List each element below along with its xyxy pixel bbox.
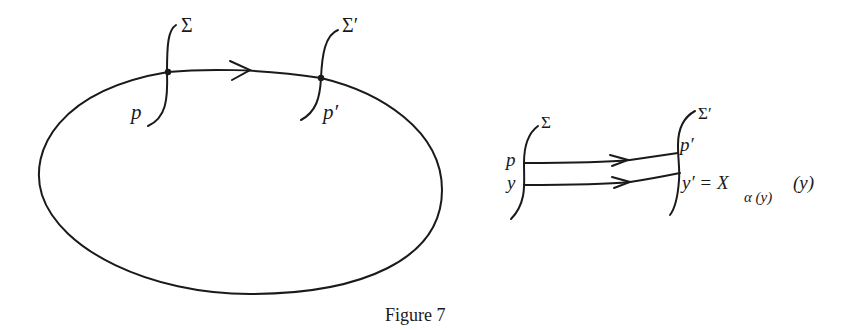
label-local-p: p: [506, 150, 516, 169]
label-sigma-prime: Σ′: [342, 15, 358, 35]
label-p: p: [131, 102, 142, 123]
point-p-prime-dot: [318, 75, 324, 81]
point-p-dot: [165, 69, 171, 75]
figure-caption: Figure 7: [385, 305, 446, 326]
formula-argument: (y): [793, 173, 814, 192]
local-section-sigma-prime: [670, 111, 695, 215]
formula-subscript: α (y): [744, 190, 772, 205]
periodic-orbit: [39, 70, 442, 294]
label-local-sigma: Σ: [541, 114, 551, 131]
label-local-y: y: [507, 173, 515, 192]
formula-lhs: y′ = X: [682, 173, 729, 192]
label-p-prime: p′: [323, 102, 338, 123]
label-sigma: Σ: [181, 15, 193, 35]
diagram-canvas: [0, 0, 849, 330]
flow-line-y: [524, 173, 680, 185]
figure-7: Σ p Σ′ p′ Σ p y Σ′ p′ y′ = X α (y) (y) F…: [0, 0, 849, 330]
flow-line-p: [524, 153, 678, 163]
label-local-p-prime: p′: [680, 135, 694, 154]
label-local-sigma-prime: Σ′: [698, 105, 712, 122]
